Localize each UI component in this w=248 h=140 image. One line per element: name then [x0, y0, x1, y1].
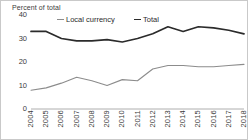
x-axis-tick-label: 2014 [179, 110, 187, 128]
y-axis-tick-label: 40 [7, 11, 27, 19]
chart-container: Percent of total 010203040 2004200520062… [0, 0, 248, 140]
x-axis-tick-label: 2010 [118, 110, 126, 128]
x-axis-tick-label: 2017 [225, 110, 233, 128]
x-axis-tick-label: 2013 [164, 110, 172, 128]
x-axis-tick-labels: 2004200520062007200820092010201120122013… [31, 109, 244, 140]
x-axis-tick-label: 2011 [134, 110, 142, 127]
y-axis-tick-label: 30 [7, 35, 27, 43]
y-axis-tick-labels: 010203040 [7, 1, 27, 140]
x-axis-tick-label: 2018 [240, 110, 248, 128]
x-axis-tick-label: 2012 [149, 110, 157, 128]
series-line-total [31, 27, 244, 42]
plot-area [31, 15, 244, 109]
y-axis-tick-label: 0 [7, 105, 27, 113]
y-axis-tick-label: 20 [7, 58, 27, 66]
x-axis-tick-label: 2016 [210, 110, 218, 128]
x-axis-tick-label: 2007 [73, 110, 81, 128]
series-lines [31, 15, 244, 109]
x-axis-tick-label: 2005 [42, 110, 50, 128]
x-axis-tick-label: 2006 [57, 110, 65, 128]
x-axis-tick-label: 2008 [88, 110, 96, 128]
y-axis-tick-label: 10 [7, 82, 27, 90]
series-line-local-currency [31, 64, 244, 90]
x-axis-tick-label: 2015 [194, 110, 202, 128]
x-axis-tick-label: 2004 [27, 110, 35, 128]
x-axis-tick-label: 2009 [103, 110, 111, 128]
